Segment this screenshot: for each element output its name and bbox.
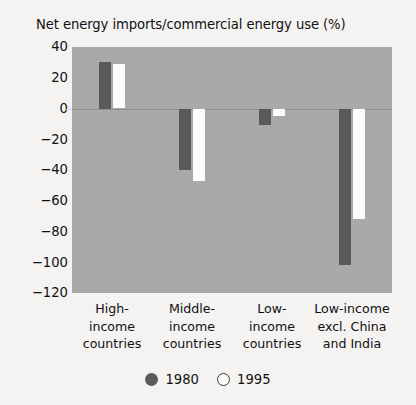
category-label-line: Low-income (306, 300, 398, 318)
x-axis-category-1: Middle-incomecountries (146, 300, 238, 353)
y-axis-tick-label: 20 (4, 71, 68, 84)
bar-1995-2 (273, 109, 285, 117)
chart-figure: Net energy imports/commercial energy use… (0, 0, 416, 405)
category-label-line: excl. China (306, 318, 398, 336)
bar-1980-1 (179, 109, 191, 171)
chart-title: Net energy imports/commercial energy use… (36, 17, 346, 32)
category-label-line: income (146, 318, 238, 336)
bar-1980-2 (259, 109, 271, 126)
y-axis-tick-label: −80 (4, 225, 68, 238)
x-axis-category-0: High-incomecountries (66, 300, 158, 353)
y-axis-tick-label: 0 (4, 102, 68, 115)
category-label-line: and India (306, 335, 398, 353)
bar-1995-0 (113, 64, 125, 109)
category-label-line: Middle- (146, 300, 238, 318)
x-axis-category-2: Low-incomecountries (226, 300, 318, 353)
open-circle-icon (217, 373, 230, 386)
y-axis-tick-label: −20 (4, 133, 68, 146)
category-label-line: High- (66, 300, 158, 318)
y-axis-tick-label: −60 (4, 194, 68, 207)
bar-1995-1 (193, 109, 205, 181)
bar-1980-3 (339, 109, 351, 266)
zero-line-axis-stub (66, 109, 72, 110)
category-label-line: income (66, 318, 158, 336)
category-label-line: income (226, 318, 318, 336)
legend-label: 1980 (165, 372, 199, 387)
y-axis-tick-label: −120 (4, 286, 68, 299)
x-axis-category-3: Low-incomeexcl. Chinaand India (306, 300, 398, 353)
category-label-line: Low- (226, 300, 318, 318)
category-label-line: countries (146, 335, 238, 353)
x-axis-category-labels: High-incomecountriesMiddle-incomecountri… (72, 300, 392, 362)
bar-1995-3 (353, 109, 365, 220)
category-label-line: countries (66, 335, 158, 353)
legend-item-1980: 1980 (145, 372, 199, 387)
y-axis-tick-label: −40 (4, 163, 68, 176)
chart-legend: 19801995 (0, 372, 416, 387)
y-axis-tick-label: −100 (4, 256, 68, 269)
y-axis-tick-label: 40 (4, 40, 68, 53)
legend-item-1995: 1995 (217, 372, 271, 387)
legend-label: 1995 (237, 372, 271, 387)
category-label-line: countries (226, 335, 318, 353)
plot-area (72, 47, 392, 293)
y-axis: 40200−20−40−60−80−100−120 (0, 0, 68, 405)
filled-circle-icon (145, 373, 158, 386)
bar-1980-0 (99, 62, 111, 108)
